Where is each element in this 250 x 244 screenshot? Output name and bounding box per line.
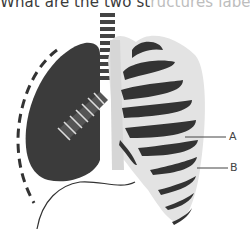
lung-ribcage-diagram bbox=[0, 0, 250, 244]
diaphragm-line bbox=[37, 182, 135, 229]
label-B: B bbox=[230, 161, 238, 174]
label-A: A bbox=[229, 130, 237, 143]
